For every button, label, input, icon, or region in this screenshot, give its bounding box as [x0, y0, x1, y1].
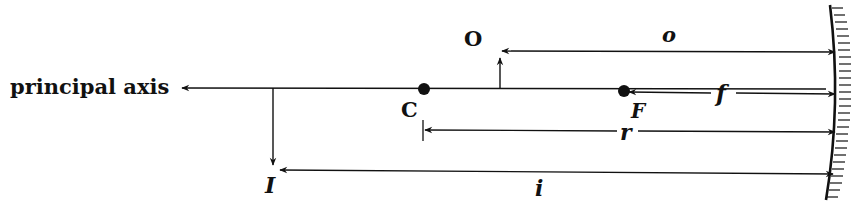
- image-distance-arrow: [280, 170, 833, 174]
- radius-label: r: [620, 119, 633, 145]
- center-label: C: [401, 97, 418, 122]
- focal-label: F: [630, 99, 647, 123]
- center-point: [418, 83, 430, 95]
- focal-length-arrow: [629, 92, 835, 94]
- image-label: I: [264, 172, 276, 198]
- object-distance-arrow: [502, 51, 835, 52]
- mirror-diagram: principal axis I O C F o f r i: [0, 0, 855, 221]
- object-distance-label: o: [662, 22, 676, 47]
- object-label: O: [464, 26, 482, 51]
- concave-mirror: [826, 5, 851, 200]
- principal-axis: [182, 88, 826, 89]
- image-distance-label: i: [535, 175, 543, 201]
- principal-axis-label: principal axis: [10, 74, 169, 99]
- focal-length-label: f: [714, 79, 730, 106]
- focal-point: [618, 85, 630, 97]
